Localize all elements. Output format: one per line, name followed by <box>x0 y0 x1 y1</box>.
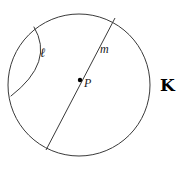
diameter-line-m <box>46 18 115 150</box>
center-point-dot <box>78 78 82 82</box>
circle-outline <box>8 14 150 156</box>
geometry-diagram: ℓ m P K <box>0 0 183 169</box>
circle-label-k: K <box>160 77 172 94</box>
geometry-canvas <box>0 0 183 169</box>
point-label-p: P <box>84 77 91 89</box>
arc-label-ell: ℓ <box>40 46 45 59</box>
line-label-m: m <box>100 43 109 55</box>
